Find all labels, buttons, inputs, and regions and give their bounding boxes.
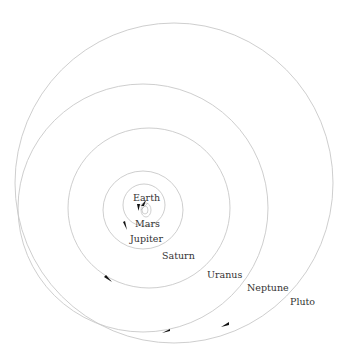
- uranus-orbit: [68, 128, 230, 288]
- arrow-icon: [221, 322, 229, 327]
- pluto-orbit: [15, 23, 333, 343]
- label-mars: Mars: [135, 219, 160, 229]
- arrow-icon: [137, 204, 140, 211]
- label-earth: Earth: [133, 193, 160, 203]
- earth-orbit: [142, 206, 148, 214]
- label-neptune: Neptune: [247, 283, 289, 293]
- label-jupiter: Jupiter: [130, 234, 163, 244]
- arrow-icon: [123, 221, 127, 230]
- label-saturn: Saturn: [162, 251, 195, 261]
- label-pluto: Pluto: [290, 297, 315, 307]
- label-uranus: Uranus: [207, 270, 242, 280]
